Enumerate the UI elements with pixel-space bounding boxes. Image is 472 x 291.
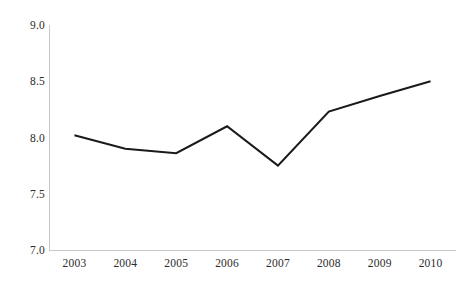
data-series-line	[74, 81, 430, 165]
line-chart: 9.08.58.07.57.0 200320042005200620072008…	[0, 0, 472, 291]
plot-area	[0, 0, 472, 291]
